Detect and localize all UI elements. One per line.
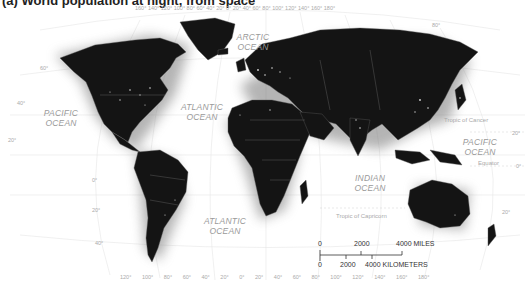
ocean-line2: OCEAN (175, 112, 229, 122)
lat-60: 60° (40, 65, 48, 71)
ocean-line1: PACIFIC (36, 108, 86, 118)
km-end: 4000 KILOMETERS (365, 261, 428, 268)
scale-bar: 0 2000 4000 MILES 0 2000 4000 KILOMETERS (300, 240, 440, 270)
ocean-line1: INDIAN (345, 173, 395, 183)
ocean-line1: PACIFIC (455, 137, 505, 147)
lat-80: 80° (432, 22, 440, 28)
ocean-label-pacific-west: PACIFIC OCEAN (36, 108, 86, 128)
ocean-label-atlantic-south: ATLANTIC OCEAN (198, 216, 252, 236)
lat-40n: 40° (17, 100, 25, 106)
longitude-labels-top: 160° 140° 120° 100° 80° 60° 40° 20° 0° 2… (135, 5, 335, 11)
equator-label: Equator (478, 160, 499, 166)
lat-20n: 20° (8, 137, 16, 143)
ocean-line2: OCEAN (345, 183, 395, 193)
km-mid: 2000 (340, 261, 356, 268)
lat-0e: 0° (516, 163, 521, 169)
australia (408, 180, 470, 228)
longitude-labels-bottom: 120° 100° 80° 60° 40° 20° 0° 20° 40° 60°… (120, 274, 429, 280)
ocean-label-indian: INDIAN OCEAN (345, 173, 395, 193)
ocean-line2: OCEAN (455, 147, 505, 157)
lat-20se: 20° (502, 209, 510, 215)
tropic-of-capricorn-label: Tropic of Capricorn (336, 213, 387, 219)
ocean-label-atlantic-north: ATLANTIC OCEAN (175, 102, 229, 122)
ocean-label-arctic: ARCTIC OCEAN (228, 32, 278, 52)
lat-40s: 40° (95, 240, 103, 246)
ocean-line1: ATLANTIC (198, 216, 252, 226)
km-zero: 0 (318, 261, 322, 268)
ocean-label-pacific-east: PACIFIC OCEAN (455, 137, 505, 157)
ocean-line1: ATLANTIC (175, 102, 229, 112)
ocean-line2: OCEAN (36, 118, 86, 128)
ocean-line1: ARCTIC (228, 32, 278, 42)
lat-20e: 20° (512, 130, 520, 136)
lat-20s: 20° (92, 207, 100, 213)
lat-0: 0° (92, 177, 97, 183)
ocean-line2: OCEAN (198, 226, 252, 236)
ocean-line2: OCEAN (228, 42, 278, 52)
tropic-of-cancer-label: Tropic of Cancer (444, 117, 488, 123)
